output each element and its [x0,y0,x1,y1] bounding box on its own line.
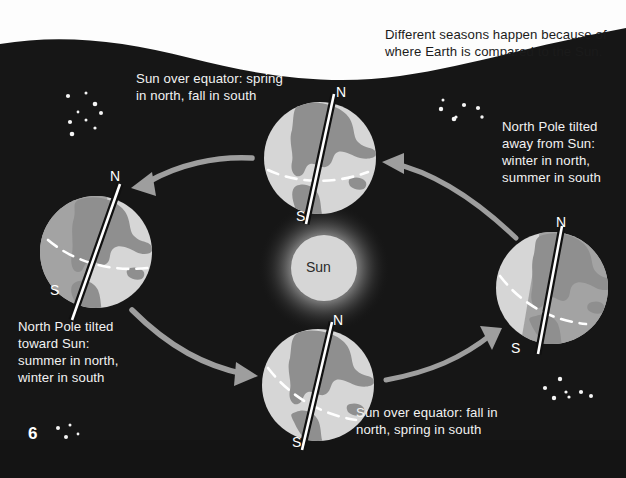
pole-label-north-bottom: N [333,312,343,328]
pole-label-south-right: S [511,340,520,356]
caption-spring-north: Sun over equator: spring in north, fall … [136,70,283,104]
caption-summer-north: North Pole tilted toward Sun: summer in … [18,318,119,386]
headline-text: Different seasons happen because of wher… [385,26,607,60]
diagram-canvas [0,0,626,478]
caption-fall-north: Sun over equator: fall in north, spring … [356,404,498,438]
pole-label-south-bottom: S [292,434,301,450]
seasons-diagram-page: Different seasons happen because of wher… [0,0,626,478]
pole-label-south-top: S [296,208,305,224]
page-number: 6 [28,424,37,444]
panel-vignette [0,440,626,478]
pole-label-north-left: N [110,168,120,184]
pole-label-north-right: N [556,214,566,230]
pole-label-south-left: S [50,282,59,298]
sun-label: Sun [306,259,331,275]
pole-label-north-top: N [336,84,346,100]
caption-winter-north: North Pole tilted away from Sun: winter … [502,118,601,186]
